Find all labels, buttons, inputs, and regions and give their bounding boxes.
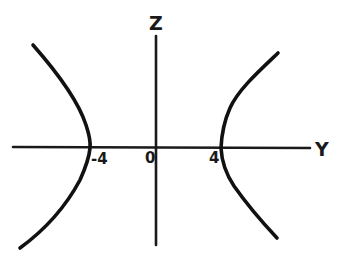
z-axis-label: Z bbox=[149, 12, 163, 34]
hyperbola-diagram: Z Y 0 -4 4 bbox=[0, 0, 342, 262]
y-axis-label: Y bbox=[314, 138, 329, 160]
right-vertex-label: 4 bbox=[209, 149, 219, 167]
y-axis bbox=[13, 147, 310, 148]
origin-label: 0 bbox=[145, 149, 155, 167]
left-vertex-label: -4 bbox=[91, 150, 108, 168]
right-branch-curve bbox=[221, 53, 278, 238]
